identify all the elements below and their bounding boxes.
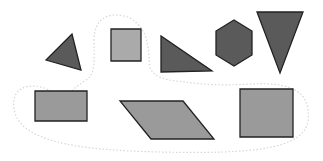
shape-layer	[35, 12, 303, 139]
shapes-svg	[0, 0, 323, 161]
shapes-figure	[0, 0, 323, 161]
small-square	[111, 29, 141, 61]
large-square	[240, 89, 293, 137]
rectangle	[35, 91, 87, 121]
small-triangle	[46, 34, 81, 70]
inverted-triangle	[257, 12, 303, 73]
hexagon	[216, 20, 252, 66]
right-triangle	[161, 36, 212, 72]
parallelogram	[120, 101, 214, 139]
